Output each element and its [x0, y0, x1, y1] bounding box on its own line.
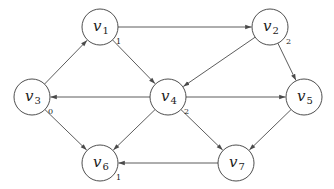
edge-v4-v6 [113, 110, 155, 151]
edge-v2-v4 [183, 37, 255, 86]
node-label-subscript: 2 [272, 25, 278, 36]
node-label-subscript: 6 [102, 161, 108, 172]
node-label-name: v [263, 17, 272, 35]
node-weight: 1 [116, 37, 121, 46]
node-v6: v61 [82, 145, 121, 182]
node-v7: v7 [218, 145, 254, 181]
node-label-name: v [93, 153, 102, 171]
node-label-name: v [25, 87, 34, 105]
node-label-name: v [297, 87, 306, 105]
node-v4: v42 [150, 79, 189, 116]
node-weight: 0 [48, 107, 53, 116]
node-weight: 2 [184, 107, 189, 116]
node-v2: v22 [252, 9, 291, 46]
edge-v1-v4 [113, 40, 156, 84]
node-label-subscript: 4 [170, 95, 176, 106]
edge-v5-v7 [249, 110, 291, 151]
node-weight: 2 [286, 37, 291, 46]
nodes-layer: v11v22v30v42v5v61v7 [14, 9, 322, 182]
node-label-subscript: 1 [102, 25, 108, 36]
graph-diagram: v11v22v30v42v5v61v7 [0, 0, 334, 189]
node-label-name: v [229, 153, 238, 171]
node-label-subscript: 5 [306, 95, 312, 106]
node-v3: v30 [14, 79, 53, 116]
node-label-subscript: 7 [238, 161, 244, 172]
node-v5: v5 [286, 79, 322, 115]
node-label-name: v [161, 87, 170, 105]
node-label-name: v [93, 17, 102, 35]
node-label-subscript: 3 [34, 95, 40, 106]
node-v1: v11 [82, 9, 121, 46]
edge-v3-v1 [45, 40, 88, 84]
edge-v2-v5 [278, 43, 296, 80]
node-weight: 1 [116, 173, 121, 182]
